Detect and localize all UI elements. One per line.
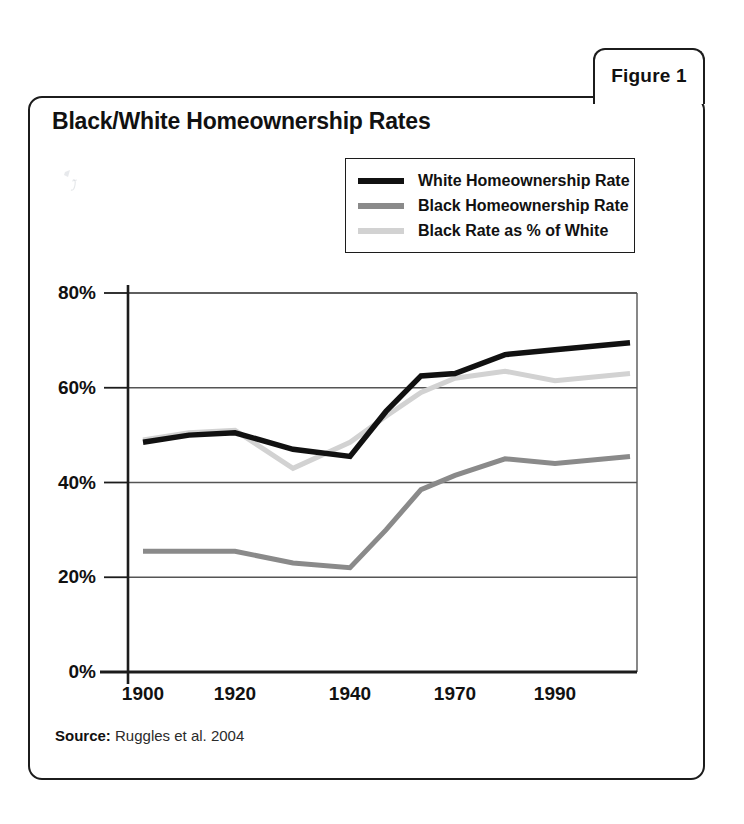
figure-number-label: Figure 1	[611, 66, 687, 88]
legend-item-white-rate: White Homeownership Rate	[358, 168, 624, 193]
legend-label-white-rate: White Homeownership Rate	[418, 173, 630, 189]
tab-card-join	[597, 94, 701, 101]
source-label: Source:	[55, 727, 111, 744]
legend-label-ratio: Black Rate as % of White	[418, 223, 608, 239]
legend-label-black-rate: Black Homeownership Rate	[418, 198, 629, 214]
legend-swatch-black-rate	[358, 203, 404, 209]
figure-container: Figure 1 Black/White Homeownership Rates…	[0, 0, 744, 824]
legend-swatch-ratio	[358, 228, 404, 234]
source-text: Ruggles et al. 2004	[111, 727, 244, 744]
scan-artifact-smudge	[62, 168, 84, 194]
legend-swatch-white-rate	[358, 178, 404, 184]
page-title: Black/White Homeownership Rates	[52, 108, 431, 135]
chart-legend: White Homeownership Rate Black Homeowner…	[345, 158, 635, 253]
legend-item-black-rate: Black Homeownership Rate	[358, 193, 624, 218]
legend-item-ratio: Black Rate as % of White	[358, 218, 624, 243]
source-note: Source: Ruggles et al. 2004	[55, 727, 244, 744]
